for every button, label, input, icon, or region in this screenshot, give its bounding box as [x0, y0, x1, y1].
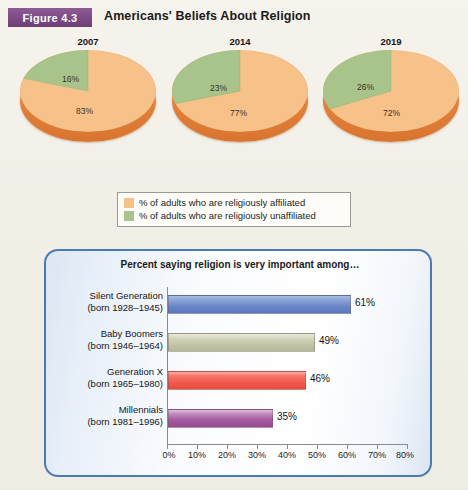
- figure-header: Figure 4.3 Americans' Beliefs About Reli…: [0, 8, 468, 30]
- bar-category-sublabel: (born 1981–1996): [53, 416, 163, 428]
- pie-slice-label-affiliated: 72%: [383, 108, 400, 118]
- pie-slice-label-unaffiliated: 23%: [210, 83, 227, 93]
- bar-value-label-genx: 46%: [310, 373, 330, 384]
- x-tick-label: 70%: [368, 450, 386, 460]
- pie-slices-svg: [172, 50, 308, 132]
- bar-chart-title: Percent saying religion is very importan…: [46, 259, 432, 270]
- x-tick: [287, 445, 288, 449]
- x-tick-label: 20%: [218, 450, 236, 460]
- legend-item-affiliated: % of adults who are religiously affiliat…: [124, 196, 344, 209]
- bar-category-sublabel: (born 1928–1945): [53, 302, 163, 314]
- bar-category-name: Generation X: [107, 366, 163, 377]
- x-tick-label: 80%: [396, 450, 414, 460]
- bar-category-sublabel: (born 1965–1980): [53, 378, 163, 390]
- pie-year-label: 2014: [165, 36, 315, 47]
- pie-top-face: [323, 50, 459, 132]
- orange-swatch-icon: [124, 198, 134, 208]
- figure-number-badge: Figure 4.3: [8, 8, 92, 27]
- pie-year-label: 2007: [13, 36, 163, 47]
- x-tick: [167, 445, 168, 449]
- pie-year-label: 2019: [316, 36, 466, 47]
- bar-chart-plot: 0% 10% 20% 30% 40% 50% 60% 70% 80% Silen…: [167, 287, 408, 445]
- bar-category-name: Millennials: [119, 404, 163, 415]
- pie-chart-2019: 2019 26% 72%: [316, 36, 466, 161]
- page-title: Americans' Beliefs About Religion: [104, 9, 311, 23]
- x-tick-label: 40%: [278, 450, 296, 460]
- x-tick: [227, 445, 228, 449]
- x-tick: [257, 445, 258, 449]
- bar-category-label-genx: Generation X (born 1965–1980): [53, 366, 167, 390]
- pie-graphic: 23% 77%: [172, 50, 308, 150]
- figure-page: Figure 4.3 Americans' Beliefs About Reli…: [0, 0, 468, 490]
- pie-slices-svg: [20, 50, 156, 132]
- pie-graphic: 26% 72%: [323, 50, 459, 150]
- pie-slice-label-unaffiliated: 26%: [357, 82, 374, 92]
- legend-label: % of adults who are religiously affiliat…: [139, 197, 305, 208]
- bar-generation-x: [168, 371, 306, 390]
- bar-baby-boomers: [168, 333, 315, 352]
- pie-top-face: [172, 50, 308, 132]
- pie-chart-2014: 2014 23% 77%: [165, 36, 315, 161]
- x-tick: [347, 445, 348, 449]
- pie-chart-group: 2007 16% 83% 2014: [0, 36, 468, 161]
- bar-value-label-millennials: 35%: [277, 411, 297, 422]
- legend-item-unaffiliated: % of adults who are religiously unaffili…: [124, 209, 344, 222]
- x-tick: [317, 445, 318, 449]
- bar-silent-generation: [168, 295, 351, 314]
- bar-value-label-boomers: 49%: [319, 335, 339, 346]
- bar-category-label-silent: Silent Generation (born 1928–1945): [53, 290, 167, 314]
- bar-category-sublabel: (born 1946–1964): [53, 340, 163, 352]
- x-tick: [407, 445, 408, 449]
- pie-slice-label-affiliated: 77%: [230, 108, 247, 118]
- x-tick-label: 0%: [162, 450, 175, 460]
- pie-slices-svg: [323, 50, 459, 132]
- bar-chart-panel: Percent saying religion is very importan…: [44, 249, 432, 477]
- bar-category-label-millennials: Millennials (born 1981–1996): [53, 404, 167, 428]
- x-tick-label: 50%: [308, 450, 326, 460]
- x-tick: [197, 445, 198, 449]
- bar-category-name: Baby Boomers: [101, 328, 163, 339]
- x-tick-label: 10%: [188, 450, 206, 460]
- pie-slice-label-affiliated: 83%: [76, 106, 93, 116]
- pie-legend: % of adults who are religiously affiliat…: [117, 192, 351, 227]
- pie-chart-2007: 2007 16% 83%: [13, 36, 163, 161]
- green-swatch-icon: [124, 211, 134, 221]
- x-tick-label: 30%: [248, 450, 266, 460]
- pie-graphic: 16% 83%: [20, 50, 156, 150]
- bar-category-label-boomers: Baby Boomers (born 1946–1964): [53, 328, 167, 352]
- x-tick-label: 60%: [338, 450, 356, 460]
- legend-label: % of adults who are religiously unaffili…: [139, 210, 316, 221]
- pie-slice-label-unaffiliated: 16%: [62, 74, 79, 84]
- pie-top-face: [20, 50, 156, 132]
- bar-value-label-silent: 61%: [355, 297, 375, 308]
- x-tick: [377, 445, 378, 449]
- bar-category-name: Silent Generation: [90, 290, 163, 301]
- bar-millennials: [168, 409, 273, 428]
